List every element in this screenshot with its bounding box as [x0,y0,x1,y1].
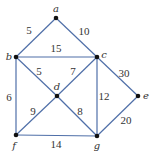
vertex-d [55,94,60,99]
edge-weight-f-g: 14 [51,138,63,150]
edge-weight-c-d: 7 [70,65,76,77]
edge-f-g [16,135,97,136]
vertex-c [95,55,100,60]
edge-weight-a-b: 5 [26,24,32,36]
vertex-f [14,133,19,138]
edge-e-g [97,96,138,136]
edge-weight-b-c: 15 [51,42,63,54]
vertex-a [54,16,59,21]
edge-c-d [57,57,97,96]
edge-weight-a-c: 10 [79,25,91,37]
vertex-label-a: a [53,3,59,14]
vertex-label-c: c [101,49,107,60]
edge-weight-d-g: 8 [77,105,83,117]
edge-weight-e-g: 20 [121,114,133,126]
edge-weight-c-g: 12 [99,90,110,102]
vertex-label-b: b [6,51,12,62]
vertex-label-g: g [94,140,100,151]
edge-d-f [16,96,57,135]
labels-layer: 510155730612982014abcdefg [6,3,149,151]
edge-weight-b-d: 5 [36,65,42,77]
vertex-label-d: d [54,81,60,92]
vertex-b [14,55,19,60]
vertex-label-f: f [11,140,18,151]
edge-weight-b-f: 6 [6,91,12,103]
vertex-e [136,94,141,99]
vertex-g [95,134,100,139]
edge-a-c [56,18,97,57]
edge-weight-c-e: 30 [119,67,131,79]
vertex-label-e: e [143,90,149,101]
weighted-graph: 510155730612982014abcdefg [0,0,157,156]
edge-weight-d-f: 9 [30,105,36,117]
